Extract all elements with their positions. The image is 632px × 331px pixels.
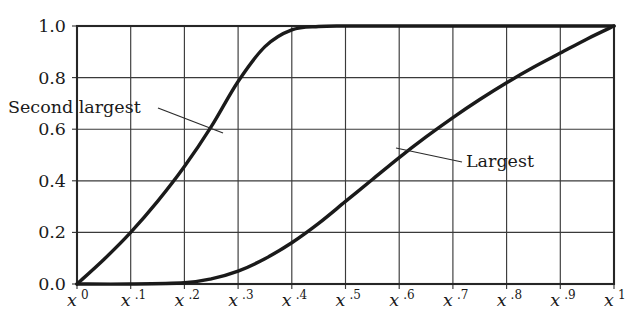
x-tick-exponent: .2 — [188, 288, 199, 302]
x-tick-label: x.9 — [550, 288, 575, 310]
x-tick-base: x — [497, 290, 507, 310]
x-tick-base: x — [67, 290, 77, 310]
x-tick-base: x — [604, 290, 614, 310]
annotation-label: Second largest — [8, 97, 141, 117]
x-tick-base: x — [443, 290, 453, 310]
x-tick-label: x.7 — [443, 288, 468, 310]
x-tick-exponent: .8 — [511, 288, 522, 302]
x-tick-label: x.1 — [121, 288, 146, 310]
x-tick-base: x — [550, 290, 560, 310]
x-tick-label: x.2 — [174, 288, 199, 310]
x-axis-tick-labels: x0x.1x.2x.3x.4x.5x.6x.7x.8x.9x1 — [67, 288, 626, 310]
x-tick-exponent: .1 — [135, 288, 146, 302]
y-axis-tick-labels: 0.00.20.40.60.81.0 — [38, 16, 66, 294]
x-tick-label: x1 — [604, 288, 626, 310]
annotation-leader-lines — [158, 108, 462, 162]
x-tick-label: x0 — [67, 288, 89, 310]
y-tick-label: 0.4 — [38, 171, 66, 191]
x-tick-base: x — [174, 290, 184, 310]
x-tick-exponent: .7 — [457, 288, 468, 302]
x-tick-base: x — [389, 290, 399, 310]
y-tick-label: 1.0 — [38, 16, 66, 36]
x-tick-exponent: 1 — [618, 288, 626, 302]
y-tick-label: 0.8 — [38, 68, 66, 88]
x-tick-exponent: .3 — [242, 288, 253, 302]
x-tick-label: x.6 — [389, 288, 414, 310]
annotation-label: Largest — [466, 151, 534, 171]
y-tick-label: 0.2 — [38, 222, 66, 242]
x-tick-exponent: .4 — [296, 288, 308, 302]
x-tick-label: x.8 — [497, 288, 522, 310]
x-tick-base: x — [282, 290, 292, 310]
chart-figure: 0.00.20.40.60.81.0 x0x.1x.2x.3x.4x.5x.6x… — [0, 0, 632, 331]
x-tick-exponent: .9 — [564, 288, 575, 302]
x-tick-exponent: .6 — [403, 288, 414, 302]
y-tick-label: 0.0 — [38, 274, 66, 294]
line-chart: 0.00.20.40.60.81.0 x0x.1x.2x.3x.4x.5x.6x… — [0, 0, 632, 331]
x-tick-label: x.4 — [282, 288, 308, 310]
y-tick-label: 0.6 — [38, 119, 66, 139]
x-tick-base: x — [228, 290, 238, 310]
x-tick-exponent: 0 — [81, 288, 89, 302]
x-tick-base: x — [121, 290, 131, 310]
x-tick-label: x.5 — [336, 288, 361, 310]
x-tick-label: x.3 — [228, 288, 253, 310]
x-tick-exponent: .5 — [350, 288, 361, 302]
annotation-leader-line — [396, 148, 462, 162]
x-tick-base: x — [336, 290, 346, 310]
